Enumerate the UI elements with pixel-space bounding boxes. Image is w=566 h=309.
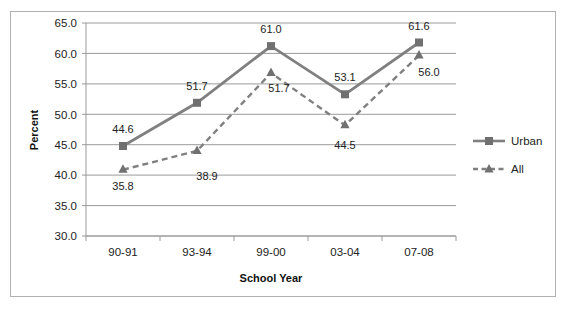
series-urban-marker [119,142,127,150]
data-label-urban: 53.1 [334,71,355,83]
y-tick-label: 45.0 [55,139,77,151]
legend-label-all: All [511,163,524,175]
x-tick-label: 93-94 [182,246,212,258]
data-labels-urban: 44.6 51.7 61.0 53.1 61.6 [112,20,429,135]
data-label-urban: 61.0 [260,23,281,35]
x-tick-label: 03-04 [330,246,360,258]
legend-label-urban: Urban [511,135,542,147]
data-label-all: 38.9 [196,170,217,182]
data-label-urban: 61.6 [408,20,429,32]
series-urban-marker [415,39,423,47]
data-label-all: 51.7 [268,82,289,94]
y-tick-label: 35.0 [55,200,77,212]
series-urban [119,39,423,151]
data-label-urban: 51.7 [186,80,207,92]
legend-item-urban[interactable]: Urban [473,135,542,147]
chart-container: 65.0 60.0 55.0 50.0 45.0 40.0 35.0 30.0 … [10,11,556,297]
y-tick-label: 55.0 [55,78,77,90]
legend-marker-square-icon [485,137,493,145]
y-tick-label: 30.0 [55,230,77,242]
y-tick-label: 60.0 [55,48,77,60]
data-labels-all: 35.8 38.9 51.7 44.5 56.0 [112,66,439,192]
data-label-all: 56.0 [418,66,439,78]
x-tick-label: 90-91 [108,246,137,258]
x-axis-title: School Year [240,272,303,284]
series-all-marker [414,50,423,59]
legend-item-all[interactable]: All [473,163,524,175]
x-axis-tick-labels: 90-91 93-94 99-00 03-04 07-08 [108,246,433,258]
data-label-all: 44.5 [334,139,355,151]
series-urban-marker [193,99,201,107]
data-label-urban: 44.6 [112,123,133,135]
data-label-all: 35.8 [112,180,133,192]
x-tick-label: 99-00 [256,246,285,258]
series-all [118,50,423,173]
series-urban-line [123,43,419,147]
y-tick-label: 40.0 [55,169,77,181]
x-tick-label: 07-08 [404,246,433,258]
y-axis-tick-labels: 65.0 60.0 55.0 50.0 45.0 40.0 35.0 30.0 [55,17,77,242]
series-all-marker [266,68,275,77]
series-urban-marker [267,42,275,50]
y-tick-label: 65.0 [55,17,77,29]
y-axis-title: Percent [28,109,40,150]
line-chart: 65.0 60.0 55.0 50.0 45.0 40.0 35.0 30.0 … [11,12,555,296]
legend: Urban All [473,135,542,175]
y-tick-label: 50.0 [55,109,77,121]
series-urban-marker [341,90,349,98]
